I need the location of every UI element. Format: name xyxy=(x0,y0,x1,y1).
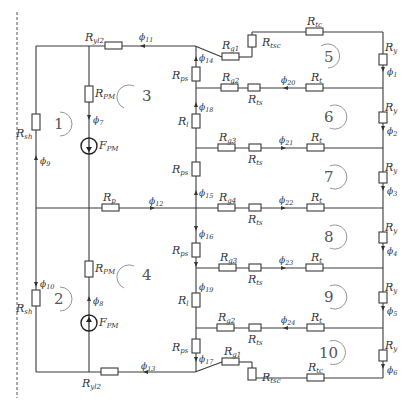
label-rts-3: Rts xyxy=(248,214,263,227)
loop-number-7: 7 xyxy=(324,170,334,185)
resistor-ryl2-top xyxy=(105,42,122,49)
label-rt-5: Rt xyxy=(311,312,322,325)
resistor-rsh-top xyxy=(32,114,40,130)
loop-number-2: 2 xyxy=(54,292,64,307)
label-phi17: ϕ17 xyxy=(199,355,213,366)
label-ry-3: Ry xyxy=(385,162,397,175)
resistor-rtsc-bottom xyxy=(248,368,256,380)
label-rps-3: Rps xyxy=(172,245,188,258)
label-rsh-bottom: Rsh xyxy=(16,303,32,316)
label-rg2-top: Rg2 xyxy=(222,72,239,85)
label-phi7: ϕ7 xyxy=(93,116,103,127)
label-phi14: ϕ14 xyxy=(199,54,213,65)
label-rpm-bottom: RPM xyxy=(95,263,115,276)
resistor-rt-5 xyxy=(307,324,324,331)
label-phi15: ϕ15 xyxy=(199,189,213,200)
label-phi6: ϕ6 xyxy=(387,366,397,377)
label-phi16: ϕ16 xyxy=(199,230,213,241)
resistor-rts-1 xyxy=(248,84,260,91)
label-rg2-bottom: Rg2 xyxy=(218,312,235,325)
label-rp: Rp xyxy=(103,192,116,205)
resistor-rg4 xyxy=(218,204,235,211)
label-rl-top: Rl xyxy=(178,116,189,129)
label-rt-3: Rt xyxy=(311,192,322,205)
resistor-rt-1 xyxy=(306,84,323,91)
label-rps-4: Rps xyxy=(172,342,188,355)
resistor-rts-3 xyxy=(249,204,261,211)
label-phi13: ϕ13 xyxy=(141,362,155,373)
resistor-rt-4 xyxy=(306,264,323,271)
resistor-rp xyxy=(102,204,119,211)
resistor-rpm-top xyxy=(85,86,93,102)
loop-number-5: 5 xyxy=(324,50,334,65)
label-phi2: ϕ2 xyxy=(387,127,397,138)
mmf-source-fpm-bottom xyxy=(81,315,97,331)
label-rt-1: Rt xyxy=(311,72,322,85)
label-phi19: ϕ19 xyxy=(199,283,213,294)
resistor-rg1-top xyxy=(222,53,239,60)
label-ry-4: Ry xyxy=(385,222,397,235)
label-phi5: ϕ5 xyxy=(387,307,397,318)
resistor-ryl2-bottom xyxy=(101,368,118,375)
resistor-rg3-top xyxy=(218,144,235,151)
label-rps-1: Rps xyxy=(172,70,188,83)
label-rtsc-top: Rtsc xyxy=(262,37,281,50)
label-rt-2: Rt xyxy=(311,132,322,145)
resistor-rl-top xyxy=(192,114,200,128)
label-phi1: ϕ1 xyxy=(387,68,397,79)
resistor-rps-3 xyxy=(192,243,200,257)
label-rg4: Rg4 xyxy=(219,192,236,205)
loop-number-9: 9 xyxy=(324,290,334,305)
label-phi11: ϕ11 xyxy=(139,33,153,44)
label-ry-5: Ry xyxy=(385,282,397,295)
label-rg3-bottom: Rg3 xyxy=(220,252,237,265)
resistor-rtc-top xyxy=(306,28,323,35)
label-rts-5: Rts xyxy=(248,334,263,347)
label-ry-1: Ry xyxy=(385,42,397,55)
label-rts-2: Rts xyxy=(248,154,263,167)
label-phi8: ϕ8 xyxy=(93,297,103,308)
label-phi9: ϕ9 xyxy=(40,157,50,168)
label-phi24: ϕ24 xyxy=(281,316,295,327)
label-ry-2: Ry xyxy=(385,102,397,115)
loop-number-4: 4 xyxy=(142,268,152,283)
mmf-source-fpm-top xyxy=(81,138,97,154)
loop-number-1: 1 xyxy=(54,117,64,132)
loop-number-3: 3 xyxy=(142,89,152,104)
label-rts-4: Rts xyxy=(248,274,263,287)
resistor-rtsc-top xyxy=(248,35,256,47)
resistor-rts-2 xyxy=(249,144,261,151)
label-rg1-bottom: Rg1 xyxy=(224,346,241,359)
label-rg3-top: Rg3 xyxy=(219,132,236,145)
label-rtsc-bottom: Rtsc xyxy=(262,372,281,385)
label-phi18: ϕ18 xyxy=(199,103,213,114)
label-rts-1: Rts xyxy=(248,94,263,107)
label-ry-6: Ry xyxy=(385,340,397,353)
label-ryl2-bottom: Ryl2 xyxy=(82,378,101,391)
label-rg1-top: Rg1 xyxy=(222,40,239,53)
resistor-rt-3 xyxy=(307,204,324,211)
label-phi10: ϕ10 xyxy=(40,280,54,291)
label-rpm-top: RPM xyxy=(95,88,115,101)
resistor-rpm-bottom xyxy=(85,261,93,277)
label-rsh-top: Rsh xyxy=(16,128,32,141)
resistor-ry-1 xyxy=(379,54,387,65)
resistor-rps-2 xyxy=(192,162,200,176)
magnetic-circuit-diagram: Ryl2 Ryl2 Rsh Rsh RPM RPM Rp Rg1 Rg1 Rts… xyxy=(0,0,411,402)
resistor-rsh-bottom xyxy=(32,290,40,306)
resistor-rps-1 xyxy=(192,67,200,81)
label-ryl2-top: Ryl2 xyxy=(85,32,104,45)
label-fpm-bottom: FPM xyxy=(99,317,119,330)
resistor-rg2-bottom xyxy=(217,324,234,331)
resistor-rg1-bottom xyxy=(222,358,239,365)
label-phi3: ϕ3 xyxy=(387,187,397,198)
label-phi21: ϕ21 xyxy=(279,136,293,147)
label-phi22: ϕ22 xyxy=(279,196,293,207)
resistor-rt-2 xyxy=(307,144,324,151)
loop-number-8: 8 xyxy=(324,230,334,245)
label-rps-2: Rps xyxy=(172,164,188,177)
resistor-rg2-top xyxy=(221,84,238,91)
label-rtc-top: Rtc xyxy=(307,16,322,29)
label-phi12: ϕ12 xyxy=(149,197,163,208)
resistor-rl-bottom xyxy=(192,293,200,307)
